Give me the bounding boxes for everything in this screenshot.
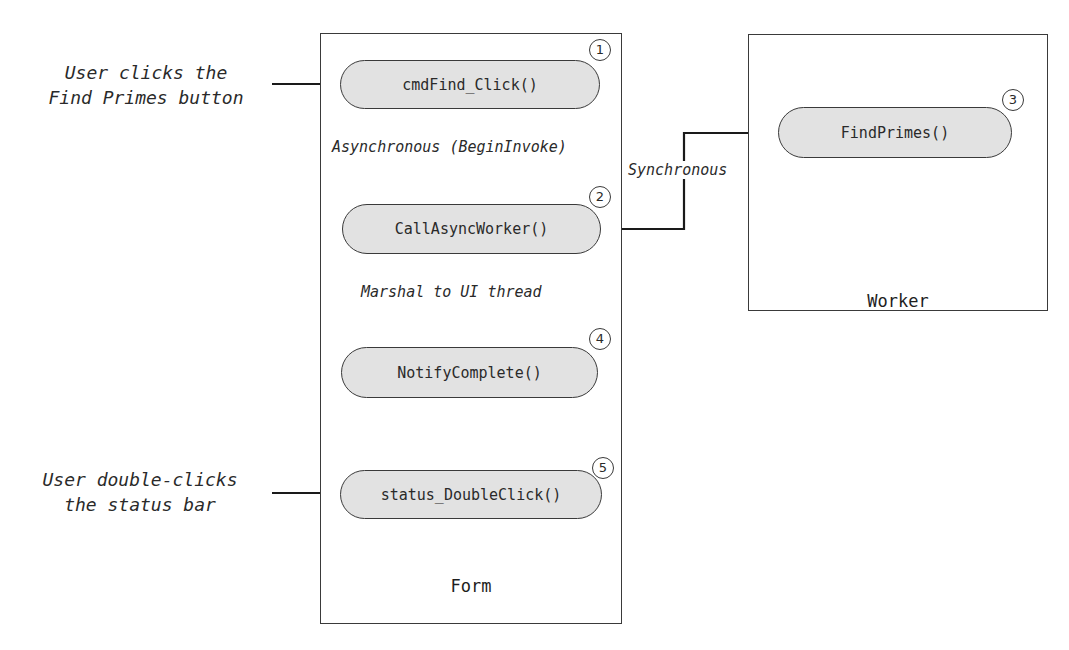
- edge-label-sync: Synchronous: [626, 161, 729, 179]
- event-line-2: Find Primes button: [26, 85, 266, 110]
- form-container: Form: [320, 33, 622, 624]
- form-title: Form: [321, 576, 621, 596]
- external-event-find-click: User clicks the Find Primes button: [26, 60, 266, 110]
- method-notifycomplete[interactable]: NotifyComplete(): [341, 347, 598, 398]
- edge-label-marshal: Marshal to UI thread: [359, 283, 544, 301]
- event-line-1: User double-clicks: [20, 467, 260, 492]
- step-badge-3: 3: [1002, 89, 1024, 111]
- event-line-2: the status bar: [20, 492, 260, 517]
- step-badge-2: 2: [589, 186, 611, 208]
- worker-title: Worker: [749, 291, 1047, 311]
- method-label: status_DoubleClick(): [381, 486, 562, 504]
- method-label: cmdFind_Click(): [402, 76, 537, 94]
- worker-container: Worker: [748, 34, 1048, 311]
- step-badge-4: 4: [589, 328, 611, 350]
- method-status-doubleclick[interactable]: status_DoubleClick(): [340, 470, 602, 519]
- method-callasyncworker[interactable]: CallAsyncWorker(): [342, 204, 601, 254]
- method-label: NotifyComplete(): [397, 364, 542, 382]
- event-line-1: User clicks the: [26, 60, 266, 85]
- method-cmdfind-click[interactable]: cmdFind_Click(): [340, 60, 600, 109]
- step-badge-5: 5: [592, 457, 614, 479]
- method-label: FindPrimes(): [841, 124, 949, 142]
- edge-label-async: Asynchronous (BeginInvoke): [330, 138, 569, 156]
- step-badge-1: 1: [589, 39, 611, 61]
- external-event-status-doubleclick: User double-clicks the status bar: [20, 467, 260, 517]
- method-findprimes[interactable]: FindPrimes(): [778, 107, 1012, 158]
- method-label: CallAsyncWorker(): [395, 220, 549, 238]
